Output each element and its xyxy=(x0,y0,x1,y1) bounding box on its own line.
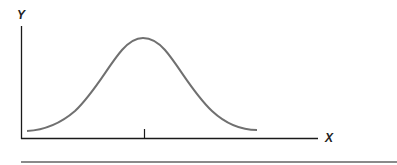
bell-curve xyxy=(27,38,257,131)
diagram-canvas xyxy=(0,0,397,165)
y-axis-label: Y xyxy=(17,8,25,22)
x-axis-label: X xyxy=(325,131,333,145)
